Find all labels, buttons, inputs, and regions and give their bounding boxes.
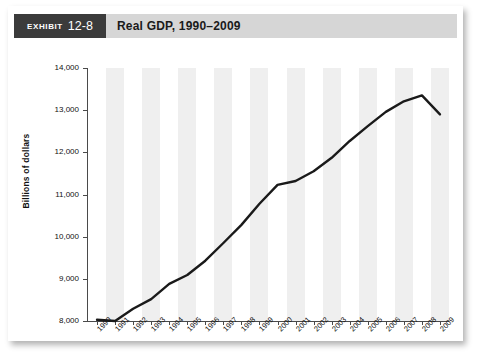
y-axis-tick-label: 12,000 — [55, 147, 79, 156]
gdp-polyline — [97, 95, 440, 321]
chart-area: Billions of dollars 8,0009,00010,00011,0… — [8, 46, 463, 341]
chart-title: Real GDP, 1990–2009 — [106, 14, 457, 38]
exhibit-header: Exhibit 12-8 Real GDP, 1990–2009 — [14, 14, 457, 38]
exhibit-tag: Exhibit 12-8 — [14, 14, 106, 38]
y-axis-tick-label: 9,000 — [59, 274, 79, 283]
y-axis-tick: 8,000 — [83, 321, 88, 322]
y-axis-tick-label: 13,000 — [55, 105, 79, 114]
exhibit-label: Exhibit — [27, 22, 63, 31]
y-axis-title: Billions of dollars — [21, 111, 31, 231]
gdp-line-series — [88, 68, 449, 321]
y-axis-tick-label: 10,000 — [55, 232, 79, 241]
y-axis-tick-label: 14,000 — [55, 63, 79, 72]
plot-area: 8,0009,00010,00011,00012,00013,00014,000… — [87, 68, 449, 322]
exhibit-page: Exhibit 12-8 Real GDP, 1990–2009 Billion… — [8, 6, 463, 341]
y-axis-tick-label: 8,000 — [59, 316, 79, 325]
exhibit-number: 12-8 — [68, 19, 93, 33]
y-axis-tick-label: 11,000 — [55, 190, 79, 199]
